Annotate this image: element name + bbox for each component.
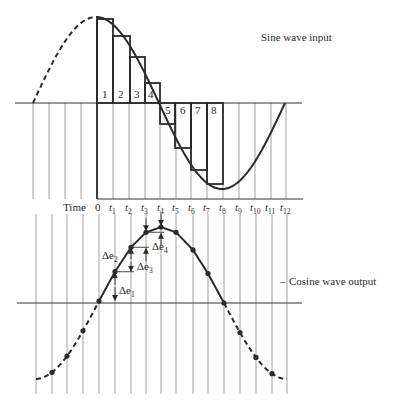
cosine-leader-dash: – (279, 275, 286, 287)
time-tick: t12 (280, 202, 291, 216)
sample-dot (80, 328, 85, 333)
sample-dot (221, 300, 226, 305)
sample-dot (205, 271, 210, 276)
delta-e3-label: Δe3 (137, 260, 153, 275)
sine-to-cosine-sampling-diagram: Sine wave input – Cosine wave output 1 2… (0, 0, 393, 408)
sample-dot (49, 370, 54, 375)
time-label: Time (63, 201, 86, 213)
time-tick: t10 (250, 202, 261, 216)
time-tick: t11 (265, 202, 275, 216)
box-number: 4 (148, 88, 154, 100)
box-number: 5 (165, 104, 171, 116)
time-axis-labels: Time 0 t1 t2 t3 t4 t5 t6 t7 t8 t9 t10 t1… (63, 201, 291, 216)
time-tick: t4 (157, 202, 164, 216)
sample-dot (253, 355, 258, 360)
sine-dashed-segment (33, 17, 97, 103)
diagram-canvas: Sine wave input – Cosine wave output 1 2… (0, 0, 393, 408)
cosine-solid-segment (99, 227, 224, 303)
sample-dot (96, 299, 101, 304)
sample-dot (158, 224, 163, 229)
box-number: 1 (102, 88, 108, 100)
sine-wave-input-label: Sine wave input (261, 31, 332, 43)
delta-e1-label: Δe1 (119, 284, 135, 299)
box-number: 8 (211, 104, 217, 116)
box-number: 6 (180, 104, 186, 116)
time-tick-zero: 0 (95, 201, 101, 213)
cosine-dashed-segment (36, 301, 99, 379)
sample-dot (190, 247, 195, 252)
time-tick: t5 (172, 202, 179, 216)
sample-dot (269, 371, 274, 376)
time-tick: t9 (235, 202, 242, 216)
sample-dot (64, 354, 69, 359)
delta-e-labels: Δe1 Δe2 Δe3 Δe4 (102, 240, 168, 299)
delta-e4-label: Δe4 (152, 240, 168, 255)
box-number: 2 (118, 88, 124, 100)
time-tick: t7 (203, 202, 210, 216)
cosine-dashed-segment (224, 303, 287, 379)
box-number: 7 (195, 104, 201, 116)
cosine-wave-output-label: Cosine wave output (289, 275, 376, 287)
sample-dot (237, 330, 242, 335)
time-tick: t6 (188, 202, 195, 216)
time-tick: t1 (109, 202, 116, 216)
sample-dot (173, 230, 178, 235)
time-tick: t8 (219, 202, 226, 216)
box-number: 3 (134, 88, 140, 100)
time-tick: t2 (125, 202, 132, 216)
time-tick: t3 (141, 202, 148, 216)
delta-e2-label: Δe2 (102, 249, 118, 264)
